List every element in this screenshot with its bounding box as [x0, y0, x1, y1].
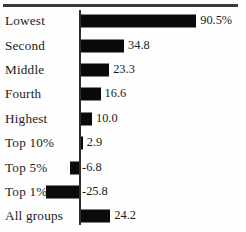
- category-label: Fourth: [5, 86, 41, 102]
- bar-row: Lowest90.5%: [0, 9, 246, 33]
- category-label: Second: [5, 37, 45, 53]
- value-label: 16.6: [105, 87, 127, 102]
- category-label: Middle: [5, 62, 44, 78]
- bar-chart-figure: Lowest90.5%Second34.8Middle23.3Fourth16.…: [0, 0, 246, 232]
- category-label: All groups: [5, 208, 63, 224]
- value-label: -25.8: [82, 184, 108, 199]
- value-label: 10.0: [96, 111, 118, 126]
- bar: [79, 88, 101, 101]
- bar-row: Top 5%-6.8: [0, 155, 246, 179]
- bar: [70, 161, 79, 174]
- value-label: 24.2: [114, 209, 136, 224]
- bar: [79, 210, 110, 223]
- value-label: 23.3: [113, 62, 135, 77]
- category-label: Top 5%: [5, 159, 47, 175]
- value-label: 34.8: [128, 38, 150, 53]
- plot-area: Lowest90.5%Second34.8Middle23.3Fourth16.…: [0, 9, 246, 229]
- bar-row: Fourth16.6: [0, 82, 246, 106]
- value-label: 2.9: [87, 135, 103, 150]
- bar-row: Middle23.3: [0, 58, 246, 82]
- bar-row: Second34.8: [0, 33, 246, 57]
- bar-row: Highest10.0: [0, 107, 246, 131]
- value-label: -6.8: [82, 160, 102, 175]
- bar: [79, 39, 124, 52]
- zero-baseline-axis: [79, 10, 81, 225]
- bar: [79, 112, 92, 125]
- bar-row: Top 1%-25.8: [0, 180, 246, 204]
- category-label: Top 10%: [5, 135, 54, 151]
- bar-row: All groups24.2: [0, 204, 246, 228]
- bar-row: Top 10%2.9: [0, 131, 246, 155]
- category-label: Top 1%: [5, 184, 47, 200]
- category-label: Highest: [5, 110, 47, 126]
- value-label: 90.5%: [200, 13, 232, 28]
- bar: [79, 15, 196, 28]
- bar: [79, 63, 109, 76]
- top-horizontal-rule: [3, 4, 238, 7]
- category-label: Lowest: [5, 13, 45, 29]
- bar: [46, 185, 79, 198]
